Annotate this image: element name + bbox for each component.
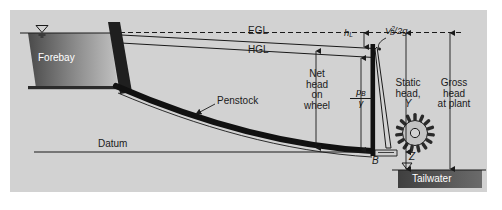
pressure-head-label: pB γ [350,88,372,108]
water-surface-triangle-tailwater [402,163,412,170]
gross-head-line-2: head [443,88,465,99]
pressure-head-denominator: γ [350,98,372,108]
forebay-label: Forebay [38,53,75,64]
hgl-label: HGL [248,45,269,56]
velocity-head-leader-dot [378,48,381,51]
head-loss-label: hL [344,28,353,39]
net-head-line-1: Net [309,68,325,79]
static-head-line-1: Static [395,77,420,88]
net-head-label: Net head on wheel [297,69,337,111]
net-head-line-4: wheel [304,100,330,111]
elevation-z-label: Z [409,152,415,163]
point-b-label: B [372,156,379,167]
pressure-head-numerator: pB [350,88,372,98]
velocity-head-label: V2B/2g [385,26,408,37]
net-head-line-2: head [306,79,328,90]
static-head-label: Static head, Y [386,78,430,110]
gross-head-line-3: at plant [438,98,471,109]
static-head-symbol: Y [405,98,412,109]
egl-label: EGL [248,26,268,37]
datum-label: Datum [98,139,127,150]
egl-line [112,35,374,49]
net-head-line-3: on [311,89,322,100]
penstock-leader-line [200,104,215,112]
gross-head-line-1: Gross [441,77,468,88]
tailwater-label: Tailwater [412,174,451,185]
hydro-penstock-figure: Forebay EGL HGL hL V2B/2g Net head on wh… [0,0,502,210]
velocity-head-leader [378,38,386,49]
hgl-line [112,43,374,58]
turbine-wheel-icon [395,113,435,153]
penstock-label: Penstock [217,96,258,107]
static-head-line-2: head, [395,88,420,99]
gross-head-label: Gross head at plant [428,78,480,110]
